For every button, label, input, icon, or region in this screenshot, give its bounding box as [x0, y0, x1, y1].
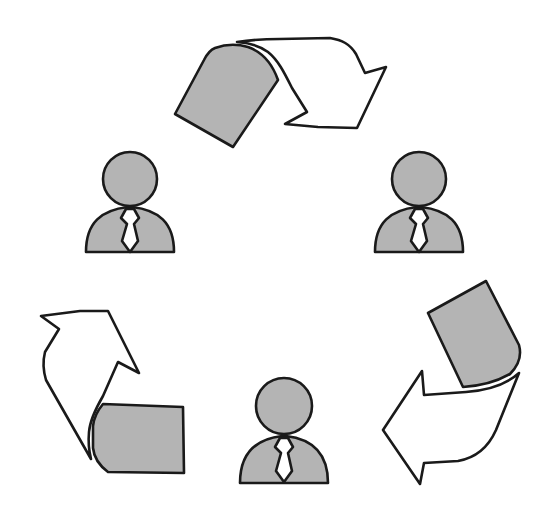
document-icon-top: [175, 45, 278, 147]
arrow-right-shape: [383, 371, 519, 484]
person-head: [103, 152, 157, 206]
document-arrow-top: [175, 38, 386, 147]
document-icon-right: [428, 281, 520, 387]
document-arrow-left: [41, 311, 184, 473]
document-cycle-diagram: [0, 0, 556, 519]
document-icon-left: [93, 404, 184, 473]
person-head: [256, 378, 312, 434]
document-arrow-right: [383, 281, 520, 484]
person-bottom: [240, 378, 328, 483]
person-head: [392, 152, 446, 206]
person-right: [375, 152, 463, 252]
person-left: [86, 152, 174, 252]
